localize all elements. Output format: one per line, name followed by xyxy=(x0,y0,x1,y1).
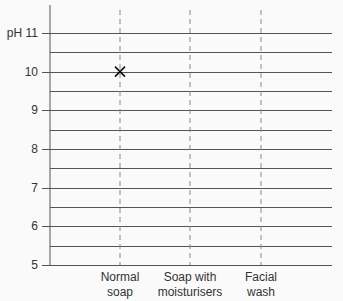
x-category-label: Facial xyxy=(245,270,277,284)
x-category-label: soap xyxy=(107,285,133,299)
y-tick-label: pH 11 xyxy=(7,26,38,40)
x-category-label: Soap with xyxy=(164,270,217,284)
y-tick-label: 7 xyxy=(31,181,38,195)
ph-chart: 5678910pH 11NormalsoapSoap withmoisturis… xyxy=(0,0,343,301)
y-tick-label: 10 xyxy=(25,65,39,79)
y-tick-label: 9 xyxy=(31,103,38,117)
y-tick-label: 6 xyxy=(31,219,38,233)
chart-plot-area: 5678910pH 11NormalsoapSoap withmoisturis… xyxy=(0,0,343,301)
y-tick-label: 5 xyxy=(31,258,38,272)
x-category-label: Normal xyxy=(101,270,140,284)
x-category-label: moisturisers xyxy=(158,285,223,299)
x-category-label: wash xyxy=(246,285,275,299)
y-tick-label: 8 xyxy=(31,142,38,156)
